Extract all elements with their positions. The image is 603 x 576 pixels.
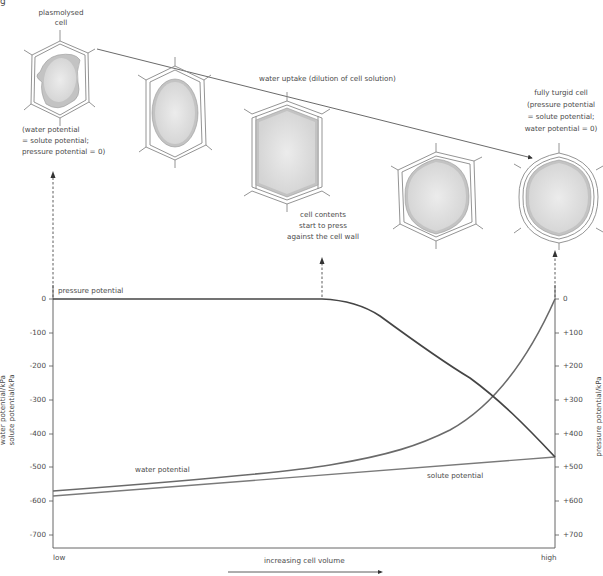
plasmolysed-cell — [24, 30, 95, 126]
right-tick-4: +400 — [563, 430, 583, 438]
cell-stage-4 — [391, 143, 483, 249]
right-tick-0: 0 — [563, 295, 568, 303]
x-axis-title: increasing cell volume — [264, 556, 345, 566]
pressure-potential-label: pressure potential — [58, 286, 123, 296]
left-tick-4: -400 — [22, 430, 46, 438]
dashed-arrow-contents-press — [320, 257, 325, 297]
cell-stage-2 — [138, 57, 212, 168]
right-tick-5: +500 — [563, 463, 583, 471]
x-tick-low: low — [53, 553, 65, 563]
dashed-arrow-plasmolysed — [51, 171, 56, 297]
plasmolysed-note: (water potential = solute potential; pre… — [22, 124, 105, 157]
contents-press-line2: start to press — [278, 220, 368, 231]
left-tick-6: -600 — [22, 497, 46, 505]
chart-axes — [49, 285, 559, 548]
fully-turgid-line3: = solute potential; — [518, 111, 603, 123]
solute-potential-label: solute potential — [427, 471, 483, 481]
fully-turgid-line4: water potential = 0) — [518, 123, 603, 135]
contents-press-line1: cell contents — [278, 209, 368, 220]
plasmolysed-label-line2: cell — [38, 18, 84, 28]
left-tick-7: -700 — [22, 531, 46, 539]
left-axis-title-solute: solute potential/kPa — [7, 365, 16, 455]
right-axis-title: pressure potential/kPa — [594, 367, 603, 467]
corner-fragment: g — [0, 0, 6, 6]
right-tick-3: +300 — [563, 396, 583, 404]
fully-turgid-cell — [514, 143, 603, 250]
right-tick-1: +100 — [563, 329, 583, 337]
plasmolysed-note-line1: (water potential — [22, 124, 105, 135]
increasing-volume-arrow — [228, 570, 383, 574]
left-tick-5: -500 — [22, 463, 46, 471]
water-potential-label: water potential — [135, 465, 190, 475]
left-tick-3: -300 — [22, 396, 46, 404]
x-tick-high: high — [541, 553, 557, 563]
left-tick-0: 0 — [22, 295, 46, 303]
left-tick-1: -100 — [22, 329, 46, 337]
left-axis-title: water potential/kPa solute potential/kPa — [0, 365, 16, 455]
right-tick-7: +700 — [563, 531, 583, 539]
plasmolysed-note-line3: pressure potential = 0) — [22, 146, 105, 157]
pressure-potential-line — [53, 299, 555, 457]
plasmolysed-note-line2: = solute potential; — [22, 135, 105, 146]
contents-press-label: cell contents start to press against the… — [278, 209, 368, 242]
left-tick-2: -200 — [22, 362, 46, 370]
right-tick-6: +600 — [563, 497, 583, 505]
fully-turgid-label: fully turgid cell (pressure potential = … — [518, 87, 603, 135]
fully-turgid-line1: fully turgid cell — [518, 87, 603, 99]
fully-turgid-line2: (pressure potential — [518, 99, 603, 111]
right-tick-2: +200 — [563, 362, 583, 370]
cell-stage-3 — [244, 92, 330, 212]
left-axis-title-water: water potential/kPa — [0, 365, 7, 455]
plasmolysed-label: plasmolysed cell — [38, 8, 84, 28]
contents-press-line3: against the cell wall — [278, 231, 368, 242]
plasmolysed-label-line1: plasmolysed — [38, 8, 84, 18]
water-uptake-label: water uptake (dilution of cell solution) — [259, 74, 396, 84]
